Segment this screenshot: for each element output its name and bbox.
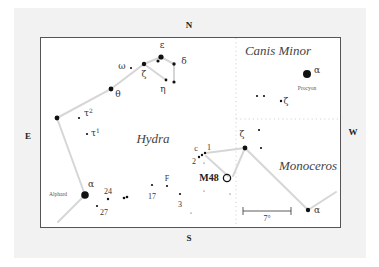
star-hydra-17 (151, 184, 153, 186)
label-hydra-zeta: ζ (142, 69, 147, 79)
label-hydra-eta: η (160, 84, 165, 94)
label-hydra-17: 17 (148, 192, 156, 201)
label-hydra-24: 24 (104, 187, 112, 196)
label-cmi-alpha: α (314, 65, 320, 75)
star-hydra-rho (172, 80, 175, 83)
label-mon-zeta: ζ (240, 129, 245, 139)
label-hydra-2: 2 (192, 157, 196, 166)
star-hydra-tau1 (86, 133, 88, 135)
star-procyon (303, 70, 311, 78)
star-hydra-1 (204, 152, 206, 154)
star-hydra-tau2 (78, 117, 80, 119)
star-hydra-27 (96, 205, 98, 207)
star-chart: N S E W Hydra Canis Minor Monoceros ε δ … (0, 0, 379, 267)
star-hydra-iota (55, 116, 60, 121)
star-hydra-theta (109, 87, 114, 92)
label-alphard: Alphard (49, 191, 67, 197)
label-mon-alpha: α (314, 205, 320, 215)
star-hydra-2 (198, 156, 200, 158)
star-chart-svg: N S E W Hydra Canis Minor Monoceros ε δ … (0, 0, 379, 267)
label-hydra-theta: θ (115, 89, 120, 99)
star-hydra-epsilon-companion (156, 59, 159, 62)
label-hydra-F: F (165, 174, 170, 183)
star-alphard (81, 191, 89, 199)
compass-north: N (186, 20, 193, 30)
compass-west: W (349, 127, 358, 137)
label-cmi-zeta: ζ (284, 96, 289, 106)
compass-east: E (25, 131, 31, 141)
star-cmi-epsilon (263, 95, 265, 97)
star-hydra-c (201, 154, 203, 156)
label-hydra-27: 27 (100, 208, 108, 217)
label-hydra-3: 3 (178, 200, 182, 209)
label-hydra-alpha: α (88, 179, 94, 189)
compass-south: S (186, 233, 191, 243)
star-cmi-zeta (280, 100, 282, 102)
scale-bar-label: 7° (263, 214, 270, 223)
star-hydra-delta (172, 62, 175, 65)
constellation-label-monoceros: Monoceros (278, 158, 337, 173)
constellation-label-hydra: Hydra (135, 131, 170, 146)
star-hydra-24 (107, 198, 109, 200)
label-hydra-c: c (194, 144, 198, 153)
star-mon-alpha (306, 208, 310, 212)
constellation-label-canis-minor: Canis Minor (245, 43, 312, 58)
label-hydra-delta: δ (181, 56, 186, 66)
star-hydra-F (166, 185, 168, 187)
star-hydra-eta (165, 79, 168, 82)
star-mon-a (258, 129, 260, 131)
star-mon-zeta (243, 146, 248, 151)
star-mon-b (260, 147, 262, 149)
star-cmi-gamma (256, 95, 258, 97)
star-faint (230, 194, 231, 195)
star-hydra-omega (130, 67, 132, 69)
star-hydra-3 (179, 193, 181, 195)
star-faint (191, 213, 192, 214)
label-hydra-epsilon: ε (160, 40, 165, 50)
label-hydra-omega: ω (118, 61, 125, 71)
star-faint (204, 163, 205, 164)
label-procyon: Procyon (298, 85, 317, 91)
label-m48: M48 (199, 172, 218, 183)
star-faint (204, 191, 205, 192)
star-hydra-zeta (142, 62, 146, 66)
label-hydra-1: 1 (207, 143, 211, 152)
star-hydra-epsilon (158, 54, 163, 59)
star-hydra-pair-b (126, 196, 129, 199)
star-hydra-pair-a (123, 197, 126, 200)
